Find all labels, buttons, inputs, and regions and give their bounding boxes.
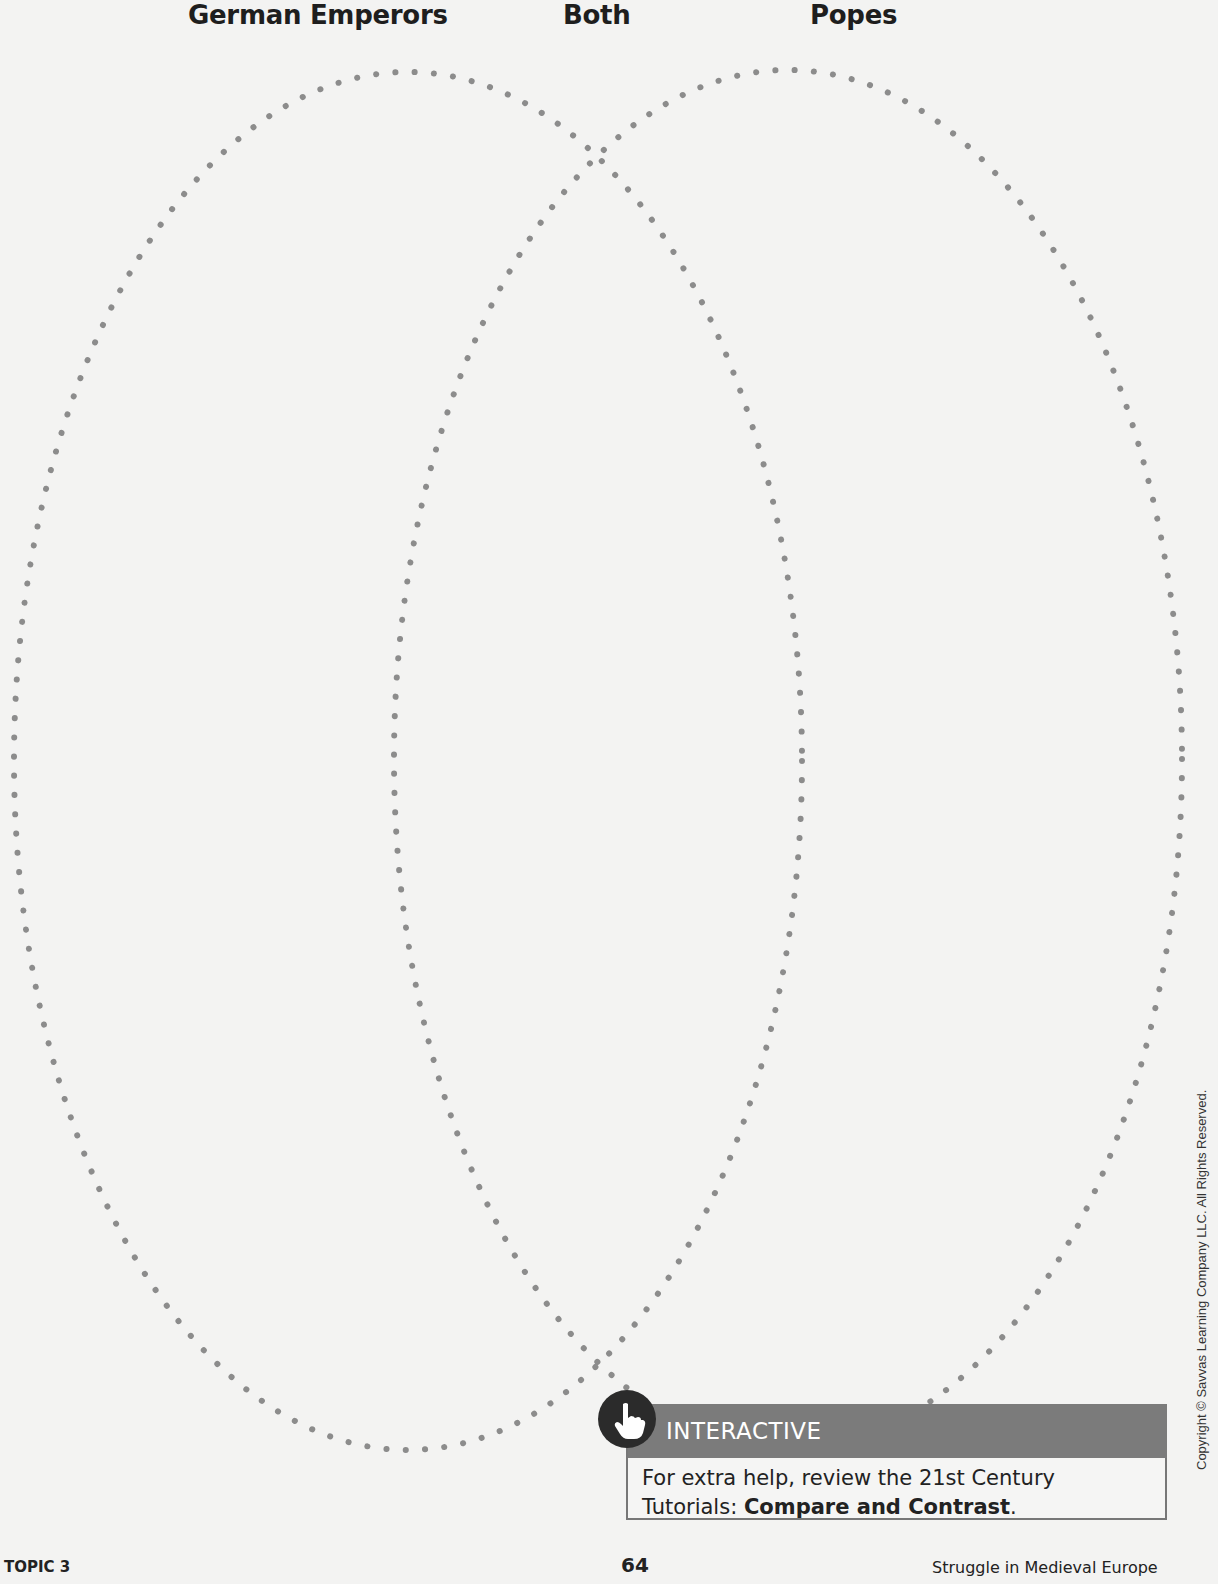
footer-topic: TOPIC 3 [4, 1558, 70, 1576]
venn-right-circle[interactable] [394, 70, 1182, 1448]
page-number: 64 [621, 1553, 649, 1577]
hand-pointer-icon [598, 1390, 656, 1448]
copyright-notice: Copyright © Savvas Learning Company LLC.… [1194, 1090, 1209, 1470]
interactive-title: INTERACTIVE [666, 1406, 822, 1456]
venn-left-circle[interactable] [14, 72, 802, 1450]
venn-diagram [0, 0, 1218, 1584]
compare-contrast-link[interactable]: Compare and Contrast [744, 1495, 1010, 1519]
footer-chapter-title: Struggle in Medieval Europe [932, 1558, 1158, 1577]
interactive-body: For extra help, review the 21st Century … [642, 1464, 1152, 1522]
